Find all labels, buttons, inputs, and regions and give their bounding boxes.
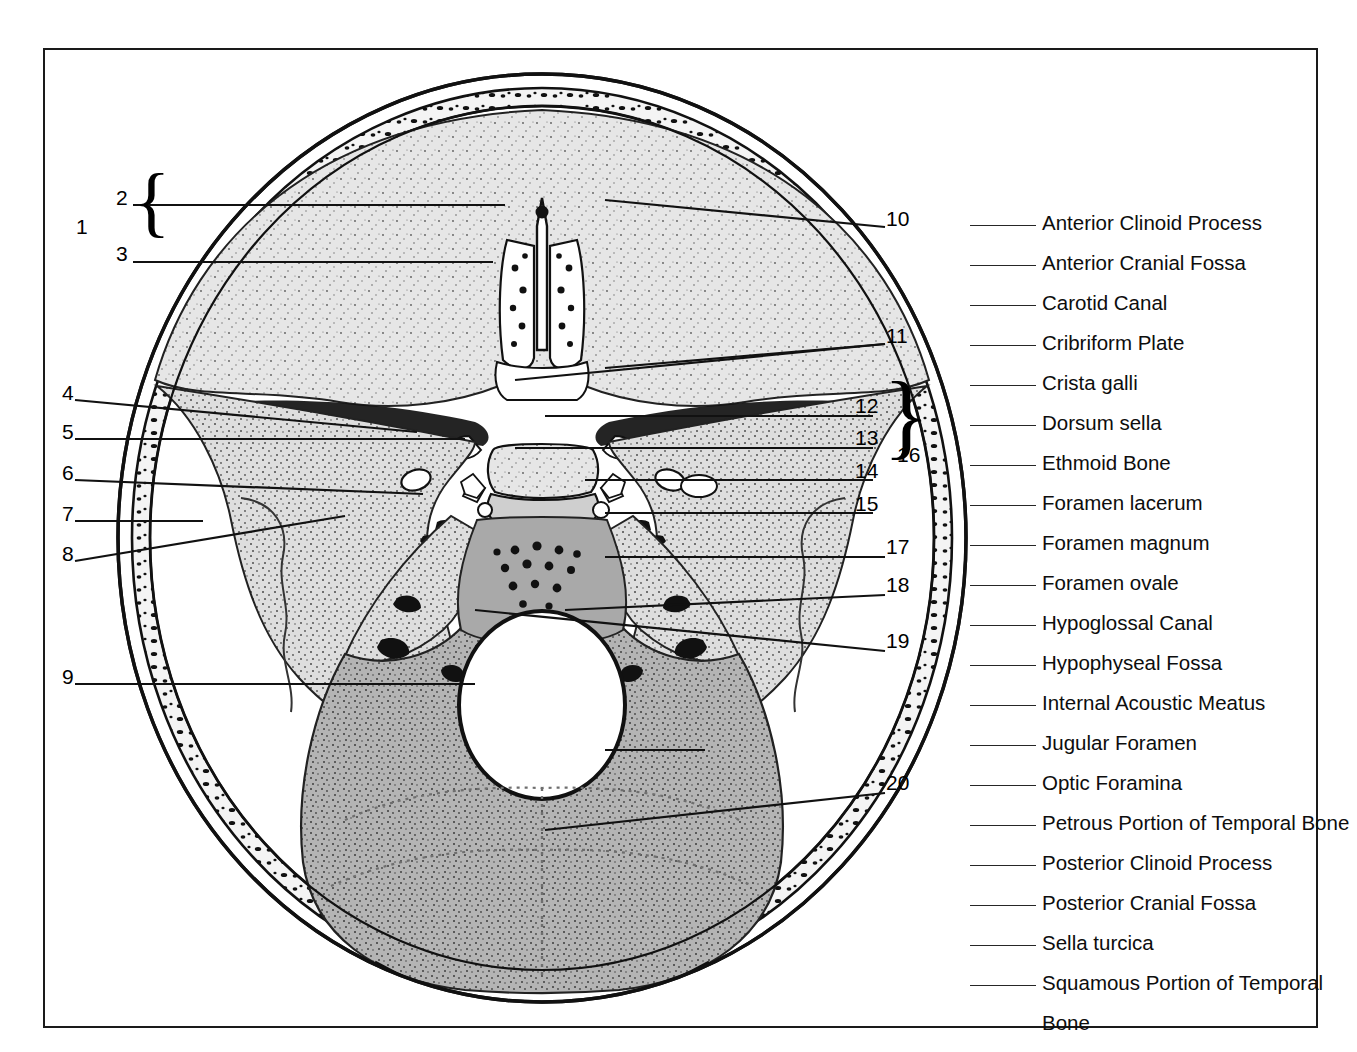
legend-item[interactable]: Dorsum sella	[970, 408, 1357, 448]
number-label-2: 2	[116, 187, 128, 208]
legend-item[interactable]: Anterior Clinoid Process	[970, 208, 1357, 248]
legend-item-label: Hypophyseal Fossa	[1042, 651, 1222, 675]
legend-leader-dash	[970, 305, 1036, 306]
legend-leader-dash	[970, 625, 1036, 626]
legend-item-label: Foramen magnum	[1042, 531, 1209, 555]
legend-leader-dash	[970, 585, 1036, 586]
legend-item[interactable]: Cribriform Plate	[970, 328, 1357, 368]
legend-item-label: Foramen lacerum	[1042, 491, 1203, 515]
legend-item-label: Sella turcica	[1042, 931, 1154, 955]
legend-item[interactable]: Hypoglossal Canal	[970, 608, 1357, 648]
legend-item-continuation: Bone	[970, 1008, 1357, 1048]
legend-item[interactable]: Crista galli	[970, 368, 1357, 408]
number-label-7: 7	[62, 503, 74, 524]
legend-item-label: Cribriform Plate	[1042, 331, 1184, 355]
legend-leader-dash	[970, 385, 1036, 386]
number-label-8: 8	[62, 543, 74, 564]
legend-item[interactable]: Ethmoid Bone	[970, 448, 1357, 488]
legend-item-label: Carotid Canal	[1042, 291, 1167, 315]
right-group-brace: }	[883, 383, 929, 447]
legend-item[interactable]: Posterior Clinoid Process	[970, 848, 1357, 888]
legend-item[interactable]: Posterior Cranial Fossa	[970, 888, 1357, 928]
legend-item[interactable]: Squamous Portion of Temporal	[970, 968, 1357, 1008]
legend-item[interactable]: Foramen lacerum	[970, 488, 1357, 528]
legend-item-label: Petrous Portion of Temporal Bone	[1042, 811, 1349, 835]
legend-item-label: Crista galli	[1042, 371, 1138, 395]
legend-leader-dash	[970, 505, 1036, 506]
legend-item-label: Anterior Cranial Fossa	[1042, 251, 1246, 275]
legend-item[interactable]: Sella turcica	[970, 928, 1357, 968]
legend-item-label: Squamous Portion of Temporal	[1042, 971, 1323, 995]
legend-leader-dash	[970, 825, 1036, 826]
number-label-18: 18	[886, 574, 909, 595]
legend-item[interactable]: Petrous Portion of Temporal Bone	[970, 808, 1357, 848]
left-group-brace: {	[133, 170, 170, 234]
legend-item-label: Ethmoid Bone	[1042, 451, 1171, 475]
legend-list: Anterior Clinoid Process Anterior Crania…	[970, 208, 1357, 1048]
number-label-14: 14	[855, 460, 878, 481]
figure-frame: 1 2 3 4 5 6 7 8 9 { 10 11 12 13 14 15 16…	[43, 48, 1318, 1028]
legend-item[interactable]: Optic Foramina	[970, 768, 1357, 808]
number-label-13: 13	[855, 427, 878, 448]
legend-leader-dash	[970, 425, 1036, 426]
legend-item-label: Posterior Cranial Fossa	[1042, 891, 1256, 915]
legend-item-label: Foramen ovale	[1042, 571, 1179, 595]
legend-item[interactable]: Anterior Cranial Fossa	[970, 248, 1357, 288]
number-label-4: 4	[62, 382, 74, 403]
legend-leader-dash	[970, 545, 1036, 546]
number-label-11: 11	[886, 325, 908, 346]
number-label-17: 17	[886, 536, 909, 557]
legend-leader-dash	[970, 985, 1036, 986]
legend-item[interactable]: Jugular Foramen	[970, 728, 1357, 768]
legend-leader-dash	[970, 785, 1036, 786]
legend-item-label: Anterior Clinoid Process	[1042, 211, 1262, 235]
legend-item-label: Optic Foramina	[1042, 771, 1182, 795]
number-label-12: 12	[855, 395, 878, 416]
legend-item-label: Jugular Foramen	[1042, 731, 1197, 755]
legend-item-label: Dorsum sella	[1042, 411, 1162, 435]
number-label-6: 6	[62, 462, 74, 483]
number-label-10: 10	[886, 208, 909, 229]
legend-leader-dash	[970, 705, 1036, 706]
legend-item-label-continuation: Bone	[1042, 1011, 1090, 1035]
number-label-9: 9	[62, 666, 74, 687]
number-label-3: 3	[116, 243, 128, 264]
legend-leader-dash	[970, 905, 1036, 906]
legend-leader-dash	[970, 225, 1036, 226]
legend-leader-dash	[970, 945, 1036, 946]
legend-item-label: Internal Acoustic Meatus	[1042, 691, 1265, 715]
figure-root: 1 2 3 4 5 6 7 8 9 { 10 11 12 13 14 15 16…	[0, 0, 1357, 1052]
legend-leader-dash	[970, 865, 1036, 866]
number-label-1: 1	[76, 216, 88, 237]
legend-leader-dash	[970, 465, 1036, 466]
legend-item[interactable]: Foramen ovale	[970, 568, 1357, 608]
legend-item-label: Hypoglossal Canal	[1042, 611, 1213, 635]
number-label-20: 20	[886, 772, 909, 793]
legend-item[interactable]: Internal Acoustic Meatus	[970, 688, 1357, 728]
number-label-19: 19	[886, 630, 909, 651]
legend-leader-dash	[970, 345, 1036, 346]
number-label-5: 5	[62, 421, 74, 442]
legend-item[interactable]: Carotid Canal	[970, 288, 1357, 328]
legend-item-label: Posterior Clinoid Process	[1042, 851, 1272, 875]
legend-item[interactable]: Foramen magnum	[970, 528, 1357, 568]
legend-item[interactable]: Hypophyseal Fossa	[970, 648, 1357, 688]
legend-leader-dash	[970, 265, 1036, 266]
legend-leader-dash	[970, 665, 1036, 666]
number-label-15: 15	[855, 493, 878, 514]
legend-leader-dash	[970, 745, 1036, 746]
